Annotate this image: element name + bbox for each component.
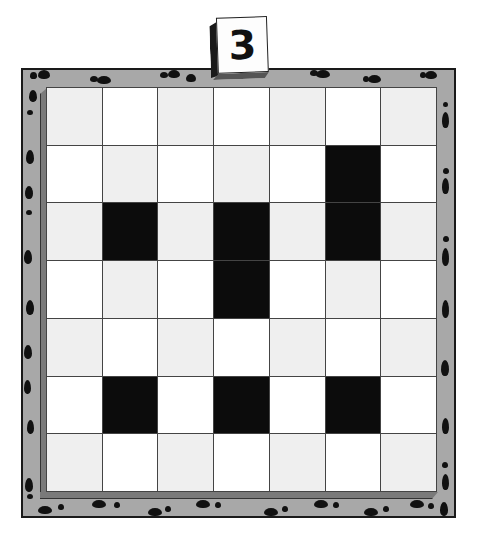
footprint-icon: [24, 380, 31, 394]
footprint-icon: [97, 76, 111, 84]
grid-cell-black[interactable]: [214, 261, 270, 319]
footprint-icon: [27, 494, 33, 499]
grid-cell[interactable]: [47, 434, 103, 492]
grid-cell[interactable]: [158, 434, 214, 492]
footprint-icon: [425, 71, 437, 79]
footprint-icon: [368, 75, 381, 83]
grid-cell[interactable]: [47, 146, 103, 204]
footprint-icon: [314, 500, 328, 508]
footprint-icon: [27, 420, 34, 434]
footprint-icon: [443, 236, 449, 242]
grid-cell[interactable]: [158, 88, 214, 146]
grid-cell-black[interactable]: [326, 203, 382, 261]
footprint-icon: [442, 418, 449, 434]
grid-cell[interactable]: [158, 377, 214, 435]
footprint-icon: [24, 345, 32, 359]
footprint-icon: [428, 503, 434, 509]
grid-cell[interactable]: [47, 203, 103, 261]
footprint-icon: [383, 506, 389, 512]
grid-cell[interactable]: [103, 261, 159, 319]
footprint-icon: [26, 300, 34, 315]
grid-cell-black[interactable]: [214, 377, 270, 435]
footprint-icon: [114, 502, 120, 508]
grid-cell-black[interactable]: [103, 203, 159, 261]
grid-cell[interactable]: [381, 88, 437, 146]
grid-cell[interactable]: [214, 319, 270, 377]
grid-cell[interactable]: [214, 434, 270, 492]
grid-cell[interactable]: [270, 146, 326, 204]
grid-cell[interactable]: [381, 319, 437, 377]
grid-cell[interactable]: [381, 203, 437, 261]
grid-cell[interactable]: [381, 261, 437, 319]
grid-cell[interactable]: [381, 146, 437, 204]
footprint-icon: [410, 500, 424, 508]
grid-cell[interactable]: [214, 88, 270, 146]
footprint-icon: [443, 102, 448, 107]
grid-cell[interactable]: [103, 434, 159, 492]
grid-cell[interactable]: [158, 261, 214, 319]
footprint-icon: [29, 90, 37, 102]
footprint-icon: [58, 504, 64, 510]
grid-cell[interactable]: [381, 434, 437, 492]
grid-cell[interactable]: [326, 261, 382, 319]
grid-cell[interactable]: [270, 261, 326, 319]
grid-cell[interactable]: [47, 319, 103, 377]
footprint-icon: [92, 500, 106, 508]
grid-cell[interactable]: [270, 203, 326, 261]
grid-cell-black[interactable]: [326, 377, 382, 435]
level-number: 3: [216, 16, 269, 74]
grid-cell[interactable]: [326, 88, 382, 146]
grid-cell[interactable]: [270, 88, 326, 146]
footprint-icon: [443, 168, 449, 174]
puzzle-grid: [46, 87, 437, 492]
footprint-icon: [442, 474, 449, 490]
grid-cell[interactable]: [47, 88, 103, 146]
footprint-icon: [442, 462, 448, 468]
footprint-icon: [442, 112, 449, 128]
footprint-icon: [442, 248, 449, 266]
grid-cell[interactable]: [214, 146, 270, 204]
footprint-icon: [168, 70, 180, 78]
footprint-icon: [442, 178, 449, 194]
footprint-icon: [26, 150, 34, 164]
footprint-icon: [27, 110, 33, 115]
grid-cell[interactable]: [103, 146, 159, 204]
grid-cell[interactable]: [158, 146, 214, 204]
grid-cell[interactable]: [103, 88, 159, 146]
grid-cell[interactable]: [270, 319, 326, 377]
grid-cell-black[interactable]: [214, 203, 270, 261]
grid-cell-black[interactable]: [103, 377, 159, 435]
footprint-icon: [160, 72, 168, 78]
footprint-icon: [440, 502, 448, 516]
footprint-icon: [196, 500, 210, 508]
footprint-icon: [24, 250, 32, 264]
grid-cell[interactable]: [158, 203, 214, 261]
footprint-icon: [38, 506, 52, 514]
grid-cell[interactable]: [326, 434, 382, 492]
grid-cell[interactable]: [47, 377, 103, 435]
grid-cell[interactable]: [381, 377, 437, 435]
grid-cell[interactable]: [270, 377, 326, 435]
footprint-icon: [282, 506, 288, 512]
footprint-icon: [186, 74, 196, 82]
grid-cell[interactable]: [270, 434, 326, 492]
grid-cell[interactable]: [158, 319, 214, 377]
footprint-icon: [148, 508, 162, 516]
footprint-icon: [333, 502, 339, 508]
footprint-icon: [215, 502, 221, 508]
footprint-icon: [441, 360, 449, 376]
footprint-icon: [165, 506, 171, 512]
footprint-icon: [38, 70, 50, 79]
footprint-icon: [264, 508, 278, 516]
level-tile: 3: [209, 16, 271, 80]
grid-cell-black[interactable]: [326, 146, 382, 204]
footprint-icon: [26, 210, 32, 215]
footprint-icon: [316, 70, 330, 78]
grid-cell[interactable]: [326, 319, 382, 377]
board-ledge-bottom: [40, 492, 438, 499]
grid-cell[interactable]: [47, 261, 103, 319]
footprint-icon: [364, 508, 378, 516]
grid-cell[interactable]: [103, 319, 159, 377]
footprint-icon: [25, 478, 33, 492]
footprint-icon: [442, 300, 449, 318]
